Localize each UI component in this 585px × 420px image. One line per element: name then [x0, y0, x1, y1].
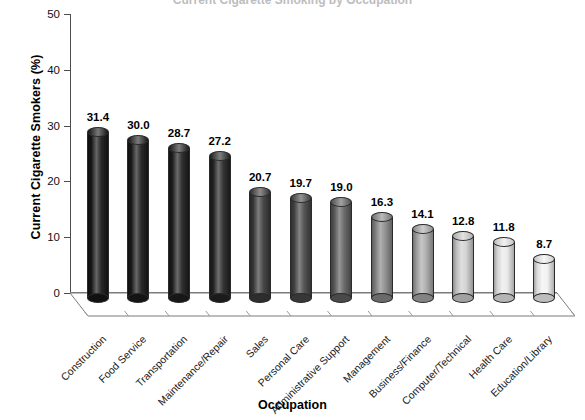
bar-body — [330, 202, 352, 298]
bar-top-cap — [412, 224, 434, 234]
bar-value-label: 19.0 — [330, 181, 352, 193]
bar: 11.8 — [493, 237, 515, 303]
bar: 31.4 — [87, 127, 109, 302]
bar-value-label: 31.4 — [87, 111, 109, 123]
bar-bottom-cap — [290, 293, 312, 303]
bar-bottom-cap — [249, 293, 271, 303]
x-axis-title: Occupation — [0, 398, 585, 412]
bar-top-cap — [493, 237, 515, 247]
bar-body — [452, 236, 474, 297]
bar: 14.1 — [412, 224, 434, 303]
bar-value-label: 16.3 — [371, 196, 393, 208]
bar-value-label: 27.2 — [208, 135, 230, 147]
bar-body — [412, 229, 434, 298]
bar-value-label: 8.7 — [536, 238, 552, 250]
bar-bottom-cap — [493, 293, 515, 303]
bar-body — [290, 198, 312, 298]
bar-bottom-cap — [209, 293, 231, 303]
bar-top-cap — [290, 193, 312, 203]
bar-top-cap — [209, 151, 231, 161]
bar: 28.7 — [168, 143, 190, 303]
bar-body — [209, 156, 231, 298]
bar: 20.7 — [249, 187, 271, 303]
bar-value-label: 30.0 — [127, 119, 149, 131]
bar: 27.2 — [209, 151, 231, 303]
bar-bottom-cap — [127, 293, 149, 303]
bar-bottom-cap — [371, 293, 393, 303]
bar: 19.7 — [290, 193, 312, 303]
bar-bottom-cap — [533, 293, 555, 303]
bar-bottom-cap — [168, 293, 190, 303]
bar-body — [533, 259, 555, 298]
bar-value-label: 14.1 — [411, 208, 433, 220]
bar-top-cap — [371, 212, 393, 222]
bar-top-cap — [330, 197, 352, 207]
bar: 19.0 — [330, 197, 352, 303]
bar: 30.0 — [127, 135, 149, 302]
bar-value-label: 20.7 — [249, 171, 271, 183]
bar-top-cap — [168, 143, 190, 153]
bar-body — [493, 242, 515, 298]
bar-body — [87, 132, 109, 297]
bar-value-label: 28.7 — [168, 127, 190, 139]
bar-value-label: 19.7 — [290, 177, 312, 189]
bar-bottom-cap — [330, 293, 352, 303]
bar-bottom-cap — [87, 293, 109, 303]
bar-body — [168, 148, 190, 298]
bar: 8.7 — [533, 254, 555, 303]
bar-value-label: 12.8 — [452, 215, 474, 227]
bar-body — [127, 140, 149, 297]
bar: 16.3 — [371, 212, 393, 303]
bar-chart: Current Cigarette Smoking by Occupation … — [0, 0, 585, 420]
bar-body — [249, 192, 271, 298]
bar-value-label: 11.8 — [493, 221, 515, 233]
bar-body — [371, 217, 393, 298]
bar-bottom-cap — [452, 293, 474, 303]
bar-bottom-cap — [412, 293, 434, 303]
bar: 12.8 — [452, 231, 474, 302]
